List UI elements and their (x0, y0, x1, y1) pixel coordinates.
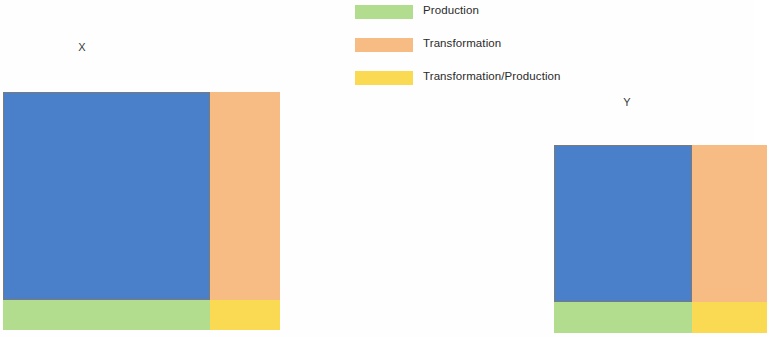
mosaic-cell-green-row (554, 302, 692, 333)
mosaic-cell-yellow-corner (210, 300, 280, 330)
mosaic-cell-yellow-corner (692, 302, 767, 333)
legend-item-label: Transformation/Production (423, 70, 561, 82)
mosaic-cell-orange-column (692, 145, 767, 302)
plot-title-y: Y (587, 96, 667, 108)
mosaic-cell-green-row (3, 300, 210, 330)
legend-swatch-orange (355, 38, 413, 52)
mosaic-cell-large-blue-block (554, 145, 692, 302)
legend-swatch-green (355, 5, 413, 19)
mosaic-plot-x (3, 92, 280, 330)
legend-swatch-yellow (355, 71, 413, 85)
legend-item[interactable]: Transformation/Production (355, 71, 615, 85)
mosaic-cell-orange-column (210, 92, 280, 300)
mosaic-plot-y (554, 145, 767, 333)
mosaic-cell-large-blue-block (3, 92, 210, 300)
legend-item-label: Transformation (423, 37, 501, 49)
legend-item[interactable]: Production (355, 5, 615, 19)
legend-item[interactable]: Transformation (355, 38, 615, 52)
legend-item-label: Production (423, 4, 479, 16)
plot-title-x: X (42, 41, 122, 53)
legend: ProductionTransformationTransformation/P… (355, 5, 615, 104)
